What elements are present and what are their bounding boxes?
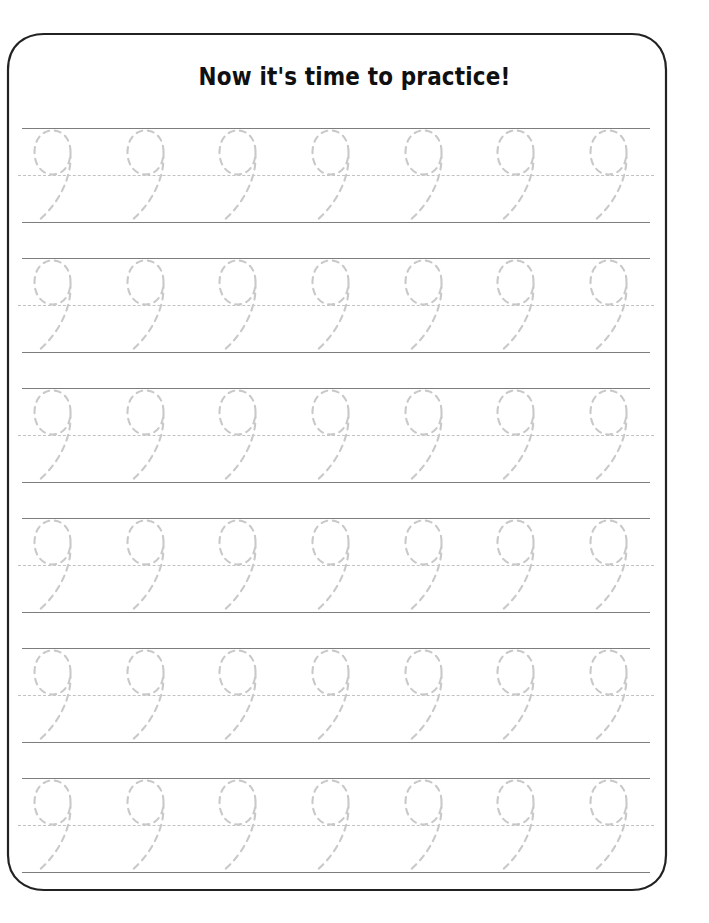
rule-line-bottom [22, 612, 650, 613]
trace-glyph-nine[interactable] [491, 388, 553, 482]
rule-line-bottom [22, 482, 650, 483]
trace-glyph-nine[interactable] [213, 518, 275, 612]
trace-glyph-nine[interactable] [584, 648, 646, 742]
practice-row [22, 128, 650, 222]
trace-glyph-nine[interactable] [213, 648, 275, 742]
trace-glyph-nine[interactable] [121, 778, 183, 872]
trace-glyph-nine[interactable] [306, 128, 368, 222]
trace-glyph-nine[interactable] [306, 258, 368, 352]
trace-glyph-nine[interactable] [28, 778, 90, 872]
trace-glyph-nine[interactable] [121, 128, 183, 222]
practice-row [22, 518, 650, 612]
trace-glyph-nine[interactable] [399, 778, 461, 872]
trace-glyph-nine[interactable] [28, 518, 90, 612]
trace-glyph-nine[interactable] [491, 648, 553, 742]
glyph-strip [22, 128, 650, 222]
worksheet-page: Now it's time to practice! [0, 0, 709, 923]
trace-glyph-nine[interactable] [28, 388, 90, 482]
trace-glyph-nine[interactable] [491, 778, 553, 872]
rule-line-bottom [22, 872, 650, 873]
trace-glyph-nine[interactable] [584, 518, 646, 612]
rule-line-bottom [22, 222, 650, 223]
practice-row [22, 778, 650, 872]
trace-glyph-nine[interactable] [399, 128, 461, 222]
trace-glyph-nine[interactable] [213, 388, 275, 482]
trace-glyph-nine[interactable] [306, 388, 368, 482]
trace-glyph-nine[interactable] [399, 388, 461, 482]
trace-glyph-nine[interactable] [28, 648, 90, 742]
trace-glyph-nine[interactable] [399, 258, 461, 352]
trace-glyph-nine[interactable] [213, 778, 275, 872]
trace-glyph-nine[interactable] [491, 518, 553, 612]
rule-line-bottom [22, 352, 650, 353]
trace-glyph-nine[interactable] [121, 258, 183, 352]
trace-glyph-nine[interactable] [491, 258, 553, 352]
trace-glyph-nine[interactable] [121, 518, 183, 612]
trace-glyph-nine[interactable] [121, 388, 183, 482]
trace-glyph-nine[interactable] [584, 388, 646, 482]
glyph-strip [22, 778, 650, 872]
trace-glyph-nine[interactable] [28, 128, 90, 222]
trace-glyph-nine[interactable] [306, 518, 368, 612]
practice-rows-area [0, 0, 709, 923]
glyph-strip [22, 388, 650, 482]
trace-glyph-nine[interactable] [584, 128, 646, 222]
trace-glyph-nine[interactable] [584, 778, 646, 872]
trace-glyph-nine[interactable] [399, 518, 461, 612]
glyph-strip [22, 258, 650, 352]
practice-row [22, 388, 650, 482]
glyph-strip [22, 518, 650, 612]
trace-glyph-nine[interactable] [306, 778, 368, 872]
trace-glyph-nine[interactable] [213, 128, 275, 222]
trace-glyph-nine[interactable] [491, 128, 553, 222]
trace-glyph-nine[interactable] [584, 258, 646, 352]
trace-glyph-nine[interactable] [213, 258, 275, 352]
trace-glyph-nine[interactable] [306, 648, 368, 742]
practice-row [22, 648, 650, 742]
trace-glyph-nine[interactable] [121, 648, 183, 742]
trace-glyph-nine[interactable] [399, 648, 461, 742]
trace-glyph-nine[interactable] [28, 258, 90, 352]
practice-row [22, 258, 650, 352]
glyph-strip [22, 648, 650, 742]
rule-line-bottom [22, 742, 650, 743]
